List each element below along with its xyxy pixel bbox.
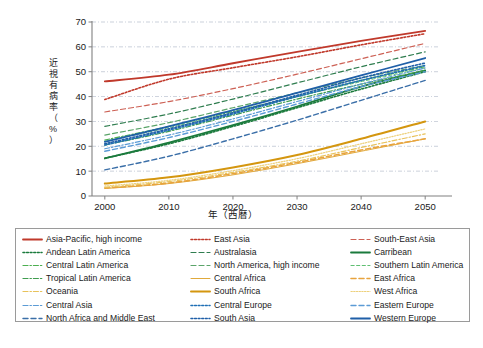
legend-item-label: Andean Latin America (46, 248, 130, 257)
y-axis-title-char: 近 (44, 58, 62, 69)
y-axis-title-char: 病 (44, 91, 62, 102)
legend-item-label: Asia-Pacific, high income (46, 235, 142, 244)
legend-line-swatch (350, 301, 371, 310)
legend-item[interactable]: Tropical Latin America (22, 272, 190, 285)
y-axis-tick-label: 10 (75, 166, 86, 177)
legend-item[interactable]: South Africa (190, 285, 350, 298)
legend-item[interactable]: Carribean (350, 246, 477, 259)
y-axis-tick-label: 20 (75, 141, 86, 152)
y-axis-tick-label: 50 (75, 66, 86, 77)
legend-item[interactable]: Australasia (190, 246, 350, 259)
y-axis-title: 近視有病率（%） (44, 58, 62, 168)
legend-line-swatch (350, 274, 371, 283)
legend-grid: Asia-Pacific, high incomeEast AsiaSouth-… (16, 229, 469, 321)
legend-item[interactable]: Eastern Europe (350, 298, 477, 311)
legend-item[interactable]: Western Europe (350, 312, 477, 325)
legend-item-label: Central Africa (214, 274, 266, 283)
legend-line-swatch (190, 274, 211, 283)
legend-line-swatch (190, 301, 211, 310)
x-axis-tick-label: 2030 (286, 201, 307, 212)
y-axis-tick-label: 30 (75, 116, 86, 127)
series-line (105, 63, 425, 144)
series-line (105, 72, 425, 159)
x-axis-tick-label: 2000 (94, 201, 115, 212)
legend-item[interactable]: Central Europe (190, 298, 350, 311)
y-axis-title-char: 視 (44, 69, 62, 80)
y-axis-title-char: 有 (44, 80, 62, 91)
legend-line-swatch (22, 235, 43, 244)
legend-line-swatch (350, 235, 371, 244)
legend-line-swatch (190, 235, 211, 244)
legend-item[interactable]: Oceania (22, 285, 190, 298)
y-axis-title-char: 率 (44, 102, 62, 113)
legend-item[interactable]: Andean Latin America (22, 246, 190, 259)
legend-item-label: Southern Latin America (374, 261, 463, 270)
legend-item-label: Central Asia (46, 301, 92, 310)
x-axis-tick-label: 2050 (415, 201, 436, 212)
legend-item-label: South-East Asia (374, 235, 435, 244)
legend-line-swatch (22, 287, 43, 296)
legend-item[interactable]: North Africa and Middle East (22, 312, 190, 325)
legend: Asia-Pacific, high incomeEast AsiaSouth-… (15, 228, 470, 322)
legend-line-swatch (22, 301, 43, 310)
legend-line-swatch (22, 274, 43, 283)
y-axis-tick-label: 40 (75, 91, 86, 102)
y-axis-title-char: （ (44, 113, 62, 124)
series-line (105, 68, 425, 149)
series-line (105, 80, 425, 169)
legend-item-label: East Africa (374, 274, 415, 283)
legend-item-label: West Africa (374, 287, 417, 296)
legend-item[interactable]: North America, high income (190, 259, 350, 272)
legend-item-label: South Africa (214, 287, 260, 296)
legend-line-swatch (350, 261, 371, 270)
legend-line-swatch (22, 314, 43, 323)
legend-line-swatch (350, 248, 371, 257)
legend-item[interactable]: Central Latin America (22, 259, 190, 272)
legend-line-swatch (22, 261, 43, 270)
legend-item-label: Western Europe (374, 314, 436, 323)
legend-item-label: North America, high income (214, 261, 320, 270)
legend-item-label: Australasia (214, 248, 257, 257)
legend-item[interactable]: West Africa (350, 285, 477, 298)
legend-item-label: Central Europe (214, 301, 272, 310)
legend-item-label: Carribean (374, 248, 412, 257)
myopia-prevalence-chart: 010203040506070200020102020203020402050 … (0, 0, 483, 348)
legend-item[interactable]: South-East Asia (350, 233, 477, 246)
y-axis-title-char: ） (44, 135, 62, 146)
legend-item-label: Oceania (46, 287, 78, 296)
legend-line-swatch (350, 287, 371, 296)
legend-line-swatch (190, 314, 211, 323)
legend-item[interactable]: Southern Latin America (350, 259, 477, 272)
x-axis-tick-label: 2040 (351, 201, 372, 212)
x-axis-title: 年（西暦） (208, 207, 258, 221)
legend-item-label: Tropical Latin America (46, 274, 131, 283)
legend-item-label: North Africa and Middle East (46, 314, 155, 323)
legend-item[interactable]: South Asia (190, 312, 350, 325)
y-axis-title-char: % (44, 124, 62, 135)
legend-line-swatch (190, 261, 211, 270)
series-line (105, 129, 425, 186)
legend-line-swatch (22, 248, 43, 257)
x-axis-tick-label: 2010 (158, 201, 179, 212)
y-axis-tick-label: 70 (75, 16, 86, 27)
legend-item[interactable]: East Asia (190, 233, 350, 246)
legend-item[interactable]: Central Asia (22, 298, 190, 311)
y-axis-tick-label: 60 (75, 41, 86, 52)
legend-line-swatch (190, 248, 211, 257)
legend-item[interactable]: Asia-Pacific, high income (22, 233, 190, 246)
legend-item[interactable]: Central Africa (190, 272, 350, 285)
legend-item-label: Central Latin America (46, 261, 128, 270)
y-axis-tick-label: 0 (81, 190, 86, 201)
legend-item-label: South Asia (214, 314, 255, 323)
legend-item-label: Eastern Europe (374, 301, 434, 310)
legend-line-swatch (190, 287, 211, 296)
legend-item-label: East Asia (214, 235, 250, 244)
legend-line-swatch (350, 314, 371, 323)
series-line (105, 34, 425, 100)
legend-item[interactable]: East Africa (350, 272, 477, 285)
